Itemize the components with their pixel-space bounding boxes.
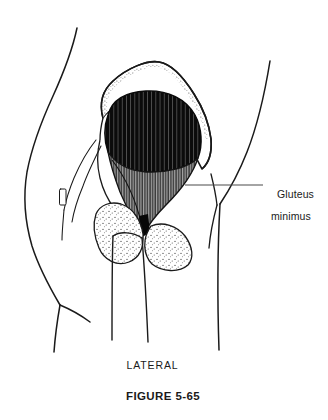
callout-label-line2: minimus — [265, 211, 314, 222]
callout-label-gluteus-minimus: Gluteus minimus — [265, 178, 314, 244]
figure-container: Gluteus minimus LATERAL FIGURE 5-65 — [0, 0, 328, 420]
figure-caption: FIGURE 5-65 — [0, 390, 326, 402]
callout-label-line1: Gluteus — [277, 188, 314, 200]
view-orientation-label: LATERAL — [0, 360, 305, 371]
